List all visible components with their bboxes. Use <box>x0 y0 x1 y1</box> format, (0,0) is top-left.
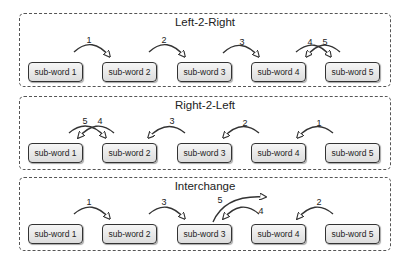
arrow-4 <box>69 126 106 138</box>
arrow-3 <box>148 127 185 138</box>
arrow-4 <box>223 207 259 219</box>
arrow-label: 5 <box>217 195 222 205</box>
arrow-3 <box>149 207 185 219</box>
arrows-layer: 1 2 3 4 5 1 2 3 4 5 1 2 3 4 5 <box>0 0 407 264</box>
arrow-1 <box>74 207 110 219</box>
arrow-2 <box>297 207 333 219</box>
arrow-label: 3 <box>169 116 174 126</box>
arrow-2 <box>149 45 185 57</box>
arrow-3 <box>223 45 259 57</box>
arrow-label: 5 <box>322 37 327 47</box>
arrow-2 <box>223 127 259 138</box>
arrow-label: 3 <box>239 37 244 47</box>
arrow-label: 2 <box>161 35 166 45</box>
arrow-5 <box>78 126 114 138</box>
arrow-1 <box>74 45 110 57</box>
arrow-label: 1 <box>86 197 91 207</box>
arrow-label: 2 <box>242 118 247 128</box>
arrow-label: 1 <box>86 35 91 45</box>
arrow-label: 3 <box>161 197 166 207</box>
arrow-label: 4 <box>258 206 263 216</box>
arrow-1 <box>297 127 333 138</box>
arrow-label: 4 <box>97 116 102 126</box>
arrow-label: 2 <box>316 197 321 207</box>
arrow-label: 1 <box>316 118 321 128</box>
arrow-label: 5 <box>82 116 87 126</box>
arrow-label: 4 <box>307 37 312 47</box>
